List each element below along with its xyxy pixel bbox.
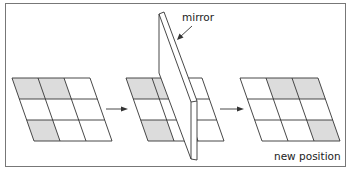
mirror-label: mirror <box>182 11 215 23</box>
new-position-label: new position <box>274 150 341 162</box>
diagram-frame: mirror new position <box>0 0 351 171</box>
mirror-reflection-diagram: mirror new position <box>0 0 351 171</box>
